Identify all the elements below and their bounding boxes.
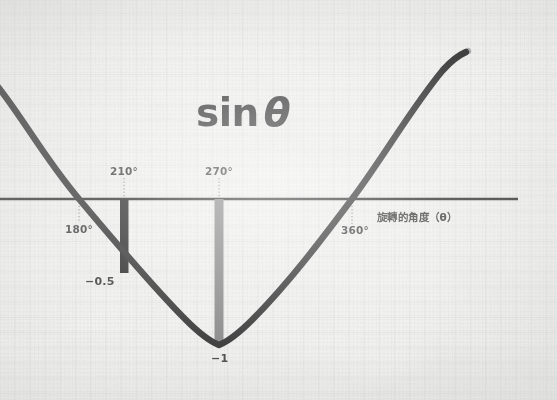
value-neg-one: −1 (211, 352, 228, 365)
title-theta-symbol: θ (259, 90, 290, 135)
tick-210: 210° (110, 165, 138, 177)
page-title: sinθ (196, 90, 290, 135)
value-neg-half: −0.5 (85, 275, 115, 288)
tick-180: 180° (65, 223, 93, 235)
tick-360: 360° (341, 224, 369, 236)
sine-chart-figure: sinθ 210° 270° 180° 360° −0.5 −1 旋轉的角度（θ… (0, 0, 557, 400)
x-axis-label: 旋轉的角度（θ） (377, 209, 457, 224)
bar-270-minus-one (215, 199, 224, 346)
tick-270: 270° (205, 165, 233, 177)
sine-curve-fade-tip (443, 51, 468, 70)
title-text: sin (196, 90, 259, 135)
bar-210-minus-half (120, 199, 129, 273)
plot-canvas (0, 0, 557, 400)
